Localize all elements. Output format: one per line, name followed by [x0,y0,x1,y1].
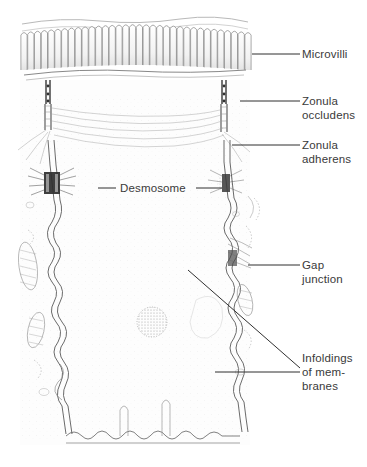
electron-micrograph-drawing [0,0,367,467]
microvillus [204,29,210,68]
microvillus [197,28,203,67]
microvillus [48,30,54,68]
microvillus [218,30,224,68]
microvillus [238,32,244,70]
microvillus [130,25,136,65]
microvillus [150,25,156,65]
microvillus [191,28,197,67]
microvillus [157,25,163,65]
cell-junction-diagram: Microvilli Zonula occludens Zonula adher… [0,0,367,467]
cell-body [20,80,250,445]
label-zonula-adherens: Zonula adherens [302,138,351,166]
label-gap-junction: Gap junction [302,258,343,286]
label-zonula-occludens: Zonula occludens [302,94,355,122]
microvillus [123,25,129,65]
microvillus [55,29,61,67]
microvillus [41,31,47,69]
microvillus [75,28,81,67]
microvillus [82,27,88,66]
microvillus [177,27,183,66]
microvillus [211,29,217,67]
microvillus [225,31,231,69]
microvillus [109,25,115,65]
microvillus [102,26,108,66]
microvillus [35,31,41,69]
microvillus [245,33,251,70]
microvillus [28,32,34,70]
microvillus [170,26,176,66]
microvillus [89,27,95,66]
microvillus [68,28,74,67]
microvillus [116,25,122,65]
lysosome [137,307,167,337]
microvillus [163,26,169,66]
label-desmosome: Desmosome [120,181,186,195]
microvillus [184,27,190,66]
microvillus [136,25,142,65]
microvillus [21,33,27,70]
microvillus [62,29,68,68]
microvillus [143,25,149,65]
microvilli-brush-border [21,17,251,80]
microvillus [231,31,237,69]
label-microvilli: Microvilli [302,47,348,61]
label-infoldings-of-membranes: Infoldings of mem- branes [302,351,353,393]
microvillus [96,26,102,66]
